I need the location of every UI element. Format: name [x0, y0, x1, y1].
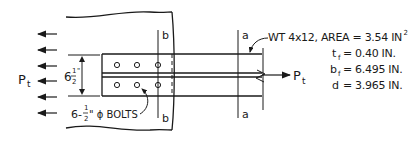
- wt-bolted-connection-diagram: P t 6 1 2 ": [0, 0, 412, 146]
- svg-text:t: t: [332, 47, 337, 60]
- svg-text:b: b: [162, 112, 169, 125]
- bolts-callout: 6- 1 2 " ϕ BOLTS: [71, 89, 148, 123]
- bolt-hole: [114, 62, 119, 67]
- svg-text:WT 4x12, AREA = 3.54 IN: WT 4x12, AREA = 3.54 IN: [268, 31, 402, 44]
- section-a-a: a a: [238, 29, 249, 121]
- bolt-hole: [134, 62, 139, 67]
- left-load-label: P t: [18, 72, 31, 89]
- distributed-load-arrows: [38, 34, 57, 113]
- svg-text:= 0.40 IN.: = 0.40 IN.: [343, 47, 396, 60]
- svg-text:a: a: [242, 108, 249, 121]
- svg-text:2: 2: [84, 115, 88, 123]
- member-properties: t f = 0.40 IN. b f = 6.495 IN. d = 3.965…: [330, 47, 402, 92]
- svg-text:1: 1: [72, 67, 76, 75]
- svg-text:6-: 6-: [71, 108, 82, 121]
- svg-text:b: b: [162, 29, 169, 42]
- svg-text:= 3.965 IN.: = 3.965 IN.: [343, 79, 402, 92]
- svg-text:6: 6: [64, 70, 72, 84]
- svg-text:1: 1: [84, 104, 88, 112]
- svg-text:P: P: [18, 72, 26, 87]
- bolt-group: [114, 62, 160, 87]
- svg-text:2: 2: [404, 29, 408, 37]
- bolt-hole: [114, 82, 119, 87]
- svg-text:P: P: [293, 68, 301, 83]
- svg-text:f: f: [338, 70, 341, 78]
- gusset-height-dimension: 6 1 2 ": [64, 55, 100, 96]
- member-break: [256, 48, 265, 110]
- svg-text:f: f: [338, 54, 341, 62]
- svg-text:t: t: [302, 76, 306, 86]
- bolt-hole: [134, 82, 139, 87]
- right-load: P t: [262, 68, 306, 86]
- svg-text:t: t: [27, 79, 31, 89]
- svg-text:b: b: [330, 63, 337, 76]
- svg-text:" ϕ BOLTS: " ϕ BOLTS: [89, 109, 138, 120]
- svg-text:a: a: [242, 29, 249, 42]
- svg-text:2: 2: [72, 78, 76, 86]
- svg-text:": ": [77, 67, 80, 75]
- svg-text:= 6.495 IN.: = 6.495 IN.: [343, 63, 402, 76]
- svg-text:d: d: [332, 79, 339, 92]
